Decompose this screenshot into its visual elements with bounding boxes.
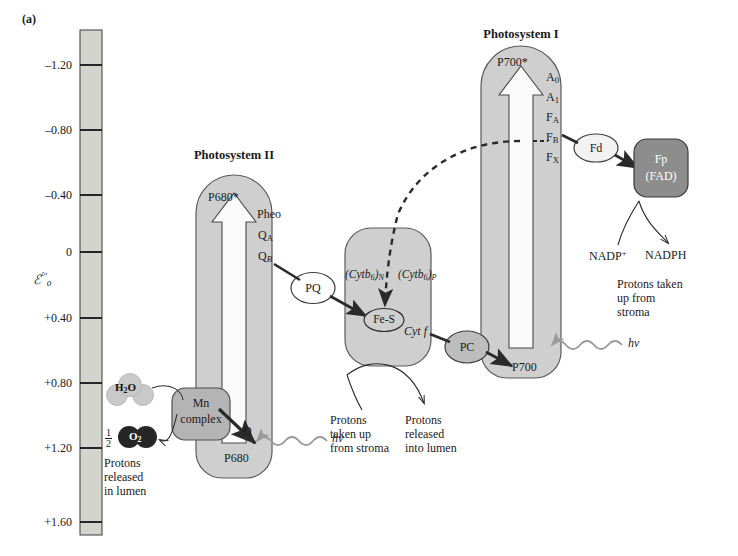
mn-complex-label-line2: complex — [166, 412, 236, 426]
axis-tick-label: –0.40 — [8, 188, 72, 202]
proton-release-arc — [347, 364, 424, 403]
pheophytin-label: Pheo — [257, 207, 281, 221]
plastocyanin-label: PC — [445, 340, 489, 354]
figure-canvas: (a) ℰ°'o –1.20 –0.80 –0.40 0 +0.40 +0.80… — [0, 0, 738, 556]
nadp-reduction-arc — [639, 201, 668, 243]
axis-tick-label: +1.60 — [8, 515, 72, 529]
axis-title: ℰ°'o — [33, 272, 51, 289]
p700-excited-label: P700* — [497, 55, 528, 69]
flavoprotein-box — [634, 139, 688, 197]
nadph-product-label: NADPH — [645, 248, 686, 262]
axis-tick-label: +1.20 — [8, 441, 72, 455]
lumen-proton-note-line3: in lumen — [104, 483, 146, 499]
lumen-proton-note2-line3: into lumen — [405, 440, 457, 456]
oxygen-label: O2 — [129, 430, 142, 444]
psii-donor-label: D — [243, 424, 252, 438]
axis-tick-label: +0.40 — [8, 311, 72, 325]
water-label: H2O — [115, 381, 136, 395]
stroma-uptake-note-line3: stroma — [617, 304, 650, 320]
photosystem-i-title: Photosystem I — [451, 27, 591, 42]
ferredoxin-label: Fd — [574, 141, 618, 155]
nadp-substrate-arc — [618, 201, 639, 245]
fx-label: FX — [546, 150, 559, 165]
qa-label: QA — [258, 228, 273, 243]
panel-letter: (a) — [22, 12, 36, 26]
p700-ground-label: P700 — [512, 360, 537, 374]
nadp-substrate-label: NADP+ — [589, 248, 627, 263]
potential-axis — [80, 30, 102, 535]
flavoprotein-label-line2: (FAD) — [634, 169, 688, 183]
fb-label: FB — [546, 130, 558, 145]
flavoprotein-label-line1: Fp — [634, 152, 688, 166]
p680-excited-label: P680* — [208, 190, 239, 204]
cytochrome-f-label: Cyt f — [404, 324, 427, 338]
photosystem-ii-title: Photosystem II — [164, 148, 304, 163]
a0-label: A0 — [546, 70, 559, 85]
cytb6-n-label: (Cytb6)N — [345, 268, 384, 283]
iron-sulfur-label: Fe-S — [364, 313, 404, 327]
plastoquinone-label: PQ — [291, 281, 335, 295]
axis-tick-label: +0.80 — [8, 376, 72, 390]
axis-tick-label: 0 — [8, 245, 72, 259]
oxygen-coefficient: 12 — [105, 428, 112, 450]
qb-to-pq-arrow — [274, 264, 300, 280]
fa-label: FA — [546, 110, 559, 125]
qb-label: QB — [258, 249, 272, 264]
proton-uptake-arc — [347, 375, 362, 410]
psi-photon-squiggle — [552, 341, 622, 349]
stroma-proton-note-line3: from stroma — [330, 440, 389, 456]
p680-ground-label: P680 — [224, 451, 249, 465]
cytochrome-b6f-box — [345, 228, 431, 366]
mn-complex-label-line1: Mn — [172, 396, 230, 410]
psi-photon-label: hν — [628, 336, 639, 350]
a1-label: A1 — [546, 90, 559, 105]
cytb6-p-label: (Cytb6)P — [398, 268, 437, 283]
axis-tick-label: –1.20 — [8, 58, 72, 72]
axis-tick-label: –0.80 — [8, 123, 72, 137]
